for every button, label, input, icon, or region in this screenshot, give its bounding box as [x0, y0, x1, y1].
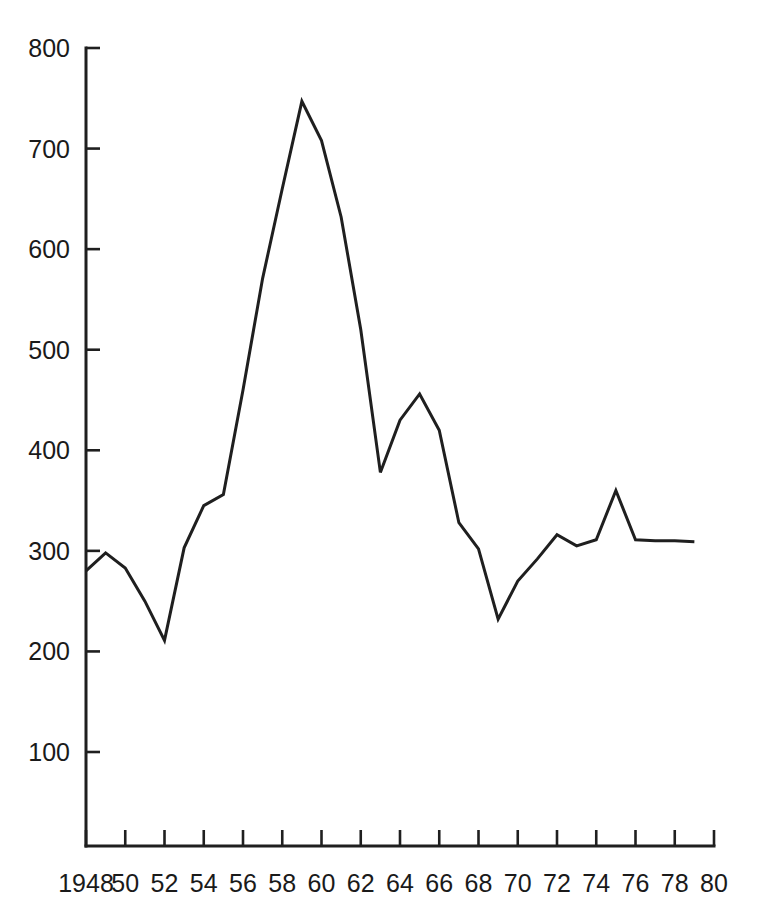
chart-plot-area: 100200300400500600700800 194850525456586… — [0, 0, 774, 922]
x-tick-label: 80 — [700, 869, 728, 897]
data-line-series-1 — [86, 101, 694, 640]
x-axis — [86, 830, 714, 846]
y-tick-label: 400 — [28, 436, 70, 464]
line-chart: 100200300400500600700800 194850525456586… — [0, 0, 774, 922]
x-tick-label: 52 — [151, 869, 179, 897]
y-tick-label: 800 — [28, 34, 70, 62]
x-tick-label: 72 — [543, 869, 571, 897]
y-tick-label: 700 — [28, 135, 70, 163]
x-tick-label: 74 — [582, 869, 610, 897]
x-tick-label-group: 194850525456586062646668707274767880 — [58, 869, 728, 897]
x-tick-label: 50 — [111, 869, 139, 897]
x-tick-label: 64 — [386, 869, 414, 897]
x-tick-label: 56 — [229, 869, 257, 897]
x-tick-label: 1948 — [58, 869, 114, 897]
x-tick-label: 68 — [465, 869, 493, 897]
x-tick-label: 60 — [308, 869, 336, 897]
y-tick-label: 300 — [28, 537, 70, 565]
x-tick-label: 54 — [190, 869, 218, 897]
y-tick-label: 600 — [28, 235, 70, 263]
x-tick-label: 62 — [347, 869, 375, 897]
x-tick-label: 70 — [504, 869, 532, 897]
x-tick-label: 58 — [268, 869, 296, 897]
y-tick-label: 100 — [28, 738, 70, 766]
x-tick-label: 76 — [622, 869, 650, 897]
x-tick-label: 66 — [425, 869, 453, 897]
x-tick-label: 78 — [661, 869, 689, 897]
y-tick-label: 200 — [28, 637, 70, 665]
y-axis — [86, 48, 100, 846]
y-tick-label: 500 — [28, 336, 70, 364]
y-tick-label-group: 100200300400500600700800 — [28, 34, 70, 766]
data-series-group — [86, 101, 694, 640]
